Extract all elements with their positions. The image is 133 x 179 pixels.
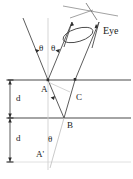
angle-label-theta-bottom: θ: [48, 135, 52, 144]
dimension-arrow-lower-bottom: [8, 157, 12, 161]
eye-lash-line-short: [70, 10, 93, 18]
dimension-label-upper-d: d: [16, 94, 21, 103]
eye-label: Eye: [103, 26, 119, 36]
angle-label-theta-left: θ: [39, 44, 43, 53]
dimension-arrow-lower-top: [8, 119, 12, 123]
dimension-arrow-upper-bottom: [8, 113, 12, 117]
point-label-c: C: [76, 93, 82, 102]
point-label-a: A: [41, 85, 48, 94]
marker-dot-a: [47, 79, 50, 82]
point-label-a-prime: A': [36, 150, 44, 159]
point-label-b: B: [67, 121, 73, 130]
incident-ray: [23, 18, 48, 80]
optical-ray-diagram: θ θ A C B θ A' d d Eye: [0, 0, 133, 179]
marker-dot-c: [74, 78, 77, 81]
emergent-ray-at-c: [75, 22, 99, 80]
internal-ray-b-to-c: [64, 80, 75, 118]
theta-internal-arrow-icon: [51, 96, 55, 100]
dimension-arrow-upper-top: [8, 81, 12, 85]
dimension-label-lower-d: d: [16, 134, 21, 143]
angle-label-theta-right: θ: [51, 44, 55, 53]
